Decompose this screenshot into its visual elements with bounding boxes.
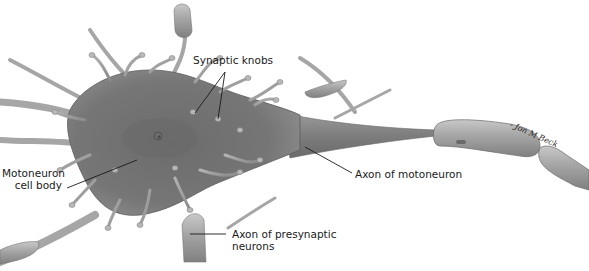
label-axon-of-presynaptic-neurons: Axon of presynaptic neurons [232, 228, 336, 252]
motoneuron-axon [280, 112, 436, 158]
label-presynaptic-line2: neurons [232, 240, 336, 252]
label-synaptic-knobs: Synaptic knobs [193, 54, 273, 66]
label-presynaptic-line1: Axon of presynaptic [232, 228, 336, 240]
label-cell-body-line2: cell body [2, 179, 62, 191]
label-motoneuron-cell-body: Motoneuron cell body [2, 167, 62, 191]
label-cell-body-line1: Motoneuron [2, 167, 62, 179]
label-axon-of-motoneuron: Axon of motoneuron [355, 168, 462, 180]
